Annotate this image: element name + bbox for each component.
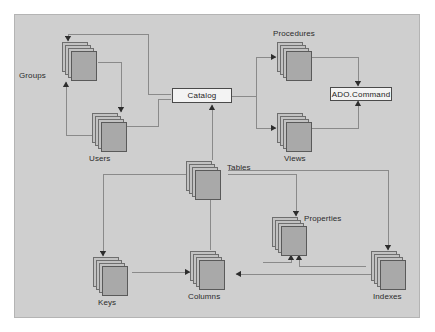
sheet <box>71 51 97 81</box>
node-label-users: Users <box>89 154 110 163</box>
node-label-procedures: Procedures <box>273 29 315 38</box>
sheet <box>102 266 128 296</box>
sheet <box>281 226 307 256</box>
diagram-canvas: Groups Users Catalog Procedures Views <box>0 0 435 332</box>
node-label-keys: Keys <box>98 298 116 307</box>
sheet <box>199 260 225 290</box>
node-label-groups: Groups <box>19 71 46 80</box>
sheet <box>101 122 127 152</box>
sheet <box>380 260 406 290</box>
node-label-properties: Properties <box>304 214 341 223</box>
node-label-columns: Columns <box>188 292 220 301</box>
node-catalog[interactable]: Catalog <box>172 88 232 103</box>
node-label-indexes: Indexes <box>373 292 402 301</box>
sheet <box>195 170 221 200</box>
node-label-views: Views <box>284 154 306 163</box>
sheet <box>286 122 312 152</box>
node-label-tables: Tables <box>227 163 251 172</box>
sheet <box>286 51 312 81</box>
node-ado-command[interactable]: ADO.Command <box>330 87 392 101</box>
